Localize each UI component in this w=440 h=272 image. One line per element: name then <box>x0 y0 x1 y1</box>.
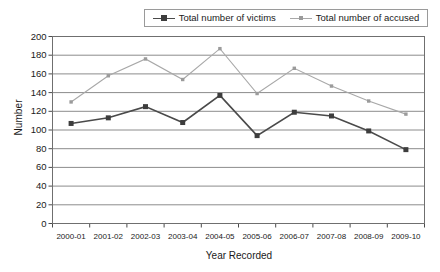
y-axis-tick-label: 200 <box>21 32 47 42</box>
series-line <box>71 49 406 114</box>
series-line <box>71 95 406 149</box>
data-point-marker <box>107 74 110 77</box>
plot-area: Number Year Recorded 2001801601401201008… <box>0 0 440 272</box>
y-axis-tick-label: 140 <box>21 88 47 98</box>
data-point-marker <box>330 84 333 87</box>
y-axis-tick-label: 180 <box>21 50 47 60</box>
y-axis-tick-label: 100 <box>21 125 47 135</box>
line-chart: Total number of victims Total number of … <box>0 0 440 272</box>
data-point-marker <box>69 100 72 103</box>
y-axis-tick-label: 0 <box>21 219 47 229</box>
data-series-layer <box>69 47 409 152</box>
series-victims <box>69 93 409 152</box>
data-point-marker <box>292 110 297 115</box>
y-axis-ticks <box>49 37 53 224</box>
data-point-marker <box>255 133 260 138</box>
x-axis-ticks <box>53 224 425 228</box>
data-point-marker <box>329 113 334 118</box>
data-point-marker <box>180 120 185 125</box>
data-point-marker <box>143 104 148 109</box>
series-accused <box>69 47 407 116</box>
x-axis-tick-label: 2009-10 <box>382 232 430 241</box>
y-axis-tick-label: 20 <box>21 200 47 210</box>
data-point-marker <box>181 78 184 81</box>
y-axis-tick-label: 160 <box>21 69 47 79</box>
data-point-marker <box>218 47 221 50</box>
data-point-marker <box>404 112 407 115</box>
y-axis-tick-label: 40 <box>21 181 47 191</box>
data-point-marker <box>217 93 222 98</box>
y-axis-tick-label: 80 <box>21 144 47 154</box>
y-axis-tick-label: 120 <box>21 106 47 116</box>
data-point-marker <box>69 121 74 126</box>
data-point-marker <box>293 67 296 70</box>
data-point-marker <box>144 57 147 60</box>
data-point-marker <box>366 128 371 133</box>
y-axis-tick-label: 60 <box>21 162 47 172</box>
data-point-marker <box>367 99 370 102</box>
data-point-marker <box>255 92 258 95</box>
data-point-marker <box>403 147 408 152</box>
x-axis-title: Year Recorded <box>52 250 426 261</box>
data-point-marker <box>106 115 111 120</box>
